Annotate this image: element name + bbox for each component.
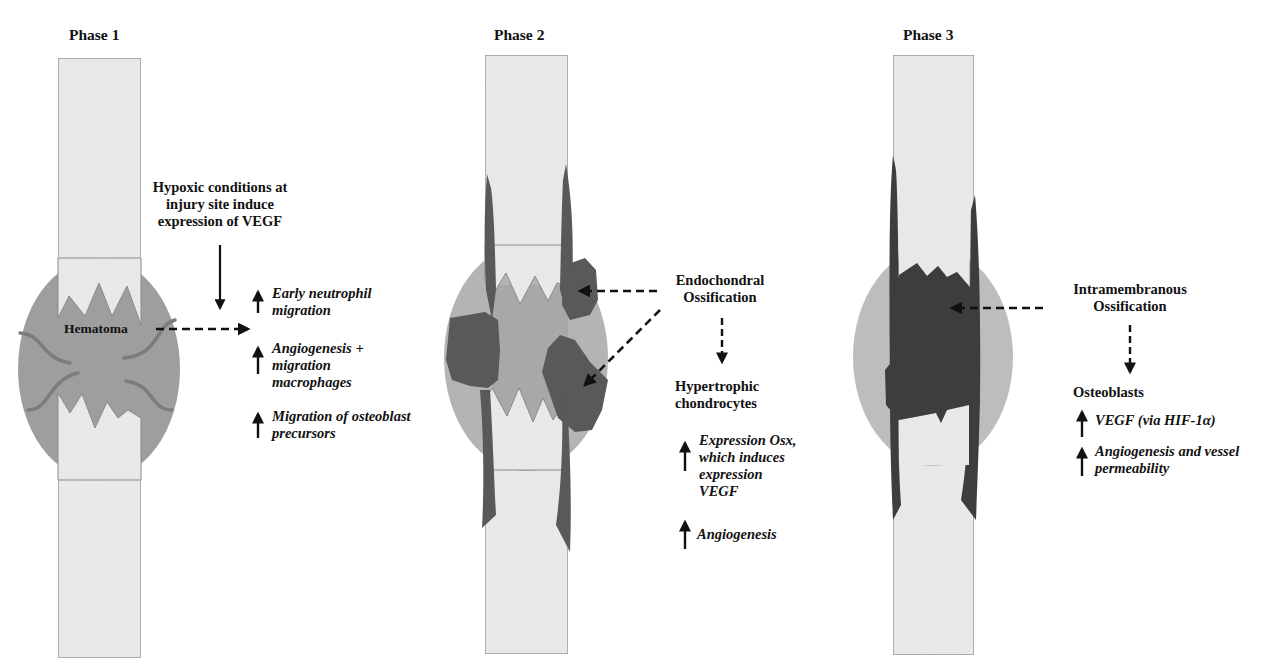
phase-2-title: Phase 2 (494, 26, 544, 44)
phase-3-cell-type: Osteoblasts (1073, 384, 1144, 401)
phase-3-process: Intramembranous Ossification (1050, 281, 1210, 315)
phase-3-effect-2: Angiogenesis and vessel permeability (1095, 443, 1239, 477)
phase-2-cell-type: Hypertrophic chondrocytes (675, 378, 759, 412)
phase-3-effect-1: VEGF (via HIF-1α) (1095, 412, 1216, 429)
fracture-healing-figure: Phase 1 Hypoxic conditions at injury sit… (0, 0, 1274, 672)
hematoma-label: Hematoma (64, 321, 128, 337)
phase-1-title: Phase 1 (69, 26, 119, 44)
phase-1-diagram (18, 58, 180, 658)
phase-1-trigger: Hypoxic conditions at injury site induce… (140, 179, 300, 230)
phase-2-process: Endochondral Ossification (660, 272, 780, 306)
phase-2-effect-2: Angiogenesis (697, 526, 777, 543)
woven-bone-block (885, 263, 979, 423)
phase-3-diagram (853, 55, 1013, 655)
phase-1-effect-3: Migration of osteoblast precursors (272, 408, 411, 442)
phase-2-diagram (444, 55, 608, 654)
phase-3-title: Phase 3 (903, 26, 953, 44)
phase-2-effect-1: Expression Osx, which induces expression… (699, 432, 797, 500)
phase-1-effect-2: Angiogenesis + migration macrophages (272, 340, 364, 391)
phase-1-effect-1: Early neutrophil migration (272, 285, 372, 319)
